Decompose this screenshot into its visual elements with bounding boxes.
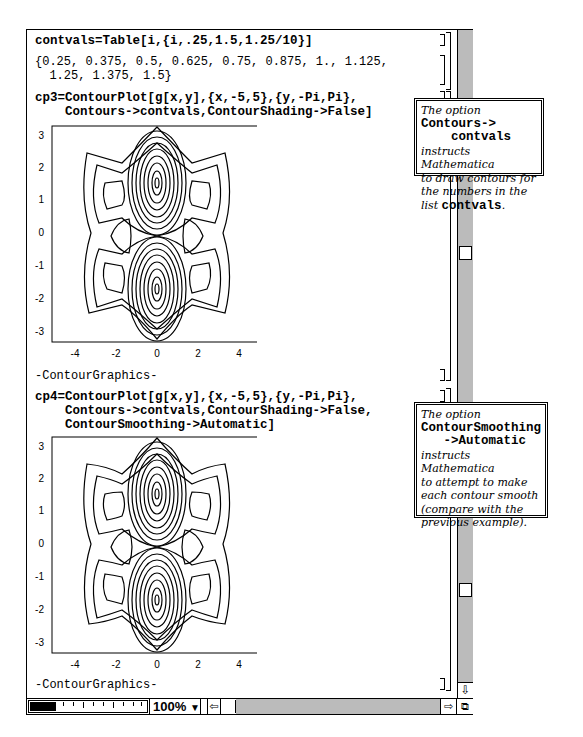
cell-bracket[interactable] <box>440 55 445 85</box>
svg-text:2: 2 <box>38 162 44 173</box>
y-axis-ticks: 3210 -1-2-3 <box>35 441 44 648</box>
svg-text:1: 1 <box>38 194 44 205</box>
output-cell-cp4[interactable]: -ContourGraphics- <box>35 678 157 692</box>
scroll-thumb[interactable] <box>459 583 472 597</box>
svg-text:3: 3 <box>38 441 44 452</box>
svg-text:4: 4 <box>236 348 242 359</box>
input-line: Contours->contvals,ContourShading->False… <box>35 404 373 418</box>
callout-text: instructs Mathematica <box>421 449 541 476</box>
input-line: ContourSmoothing->Automatic] <box>35 418 373 432</box>
contour-lines <box>84 438 230 652</box>
input-cell-cp4[interactable]: cp4=ContourPlot[g[x,y],{x,-5,5},{y,-Pi,P… <box>35 390 373 432</box>
graphics-label: -ContourGraphics- <box>35 369 157 383</box>
svg-text:-2: -2 <box>112 659 121 670</box>
svg-text:-1: -1 <box>35 571 44 582</box>
zoom-level-select[interactable]: 100% ▼ <box>149 699 201 714</box>
callout-text: previous example). <box>421 516 541 530</box>
callout-intro: The option <box>421 408 541 422</box>
output-cell-cp3[interactable]: -ContourGraphics- <box>35 369 157 383</box>
svg-text:4: 4 <box>236 659 242 670</box>
callout-code: ContourSmoothing <box>421 422 541 436</box>
contour-lines <box>84 127 230 341</box>
svg-text:-2: -2 <box>35 604 44 615</box>
input-line: cp3=ContourPlot[g[x,y],{x,-5,5},{y,-Pi,P… <box>35 91 373 105</box>
graphics-label: -ContourGraphics- <box>35 678 157 692</box>
horizontal-scrollbar-track[interactable] <box>236 699 440 714</box>
callout-code: Contours-> <box>421 118 537 132</box>
svg-text:-3: -3 <box>35 326 44 337</box>
y-axis-ticks: 3210 -1-2-3 <box>35 130 44 337</box>
cell-bracket[interactable] <box>440 390 445 402</box>
svg-text:0: 0 <box>154 659 160 670</box>
callout-text: (compare with the <box>421 503 541 517</box>
notebook-content: contvals=Table[i,{i,.25,1.5,1.25/10}] {0… <box>27 30 457 698</box>
output-line: 1.25, 1.375, 1.5} <box>35 69 388 83</box>
output-cell-contvals[interactable]: {0.25, 0.375, 0.5, 0.625, 0.75, 0.875, 1… <box>35 55 388 83</box>
cell-bracket[interactable] <box>440 34 445 46</box>
svg-text:3: 3 <box>38 130 44 141</box>
svg-text:2: 2 <box>195 659 201 670</box>
input-line: Contours->contvals,ContourShading->False… <box>35 105 373 119</box>
annotation-callout-contours: The option Contours-> contvals instructs… <box>414 98 544 176</box>
svg-text:0: 0 <box>38 227 44 238</box>
resize-grow-icon[interactable]: ⧉ <box>456 699 473 714</box>
scroll-left-arrow-icon[interactable]: ⇦ <box>207 699 221 714</box>
x-axis-ticks: -4-2024 <box>71 348 243 359</box>
cell-bracket[interactable] <box>440 678 445 690</box>
horizontal-scroll-thumb[interactable] <box>222 700 236 713</box>
svg-text:-4: -4 <box>71 659 80 670</box>
svg-text:-3: -3 <box>35 637 44 648</box>
callout-code: ->Automatic <box>421 435 541 449</box>
scroll-right-arrow-icon[interactable]: ⇨ <box>440 699 456 714</box>
x-axis-ticks: -4-2024 <box>71 659 243 670</box>
scroll-down-arrow-icon[interactable]: ⇩ <box>458 682 473 698</box>
svg-text:1: 1 <box>38 505 44 516</box>
callout-text: to attempt to make <box>421 476 541 490</box>
svg-text:0: 0 <box>154 348 160 359</box>
contour-plot-cp4[interactable]: 3210 -1-2-3 -4-2024 <box>27 434 257 684</box>
zoom-level-value: 100% <box>153 699 186 714</box>
notebook-window: contvals=Table[i,{i,.25,1.5,1.25/10}] {0… <box>26 29 473 715</box>
input-line: cp4=ContourPlot[g[x,y],{x,-5,5},{y,-Pi,P… <box>35 390 373 404</box>
annotation-callout-smoothing: The option ContourSmoothing ->Automatic … <box>414 402 548 518</box>
cell-bracket[interactable] <box>440 369 445 381</box>
svg-text:-1: -1 <box>35 260 44 271</box>
callout-text: each contour smooth <box>421 489 541 503</box>
callout-text: list contvals. <box>421 199 537 214</box>
callout-code: contvals <box>421 131 537 145</box>
svg-text:-4: -4 <box>71 348 80 359</box>
callout-text: the numbers in the <box>421 185 537 199</box>
callout-text: instructs Mathematica <box>421 145 537 172</box>
output-line: {0.25, 0.375, 0.5, 0.625, 0.75, 0.875, 1… <box>35 55 388 69</box>
ruler-fill <box>30 702 56 711</box>
input-cell-cp3[interactable]: cp3=ContourPlot[g[x,y],{x,-5,5},{y,-Pi,P… <box>35 91 373 119</box>
svg-text:0: 0 <box>38 538 44 549</box>
input-cell-contvals[interactable]: contvals=Table[i,{i,.25,1.5,1.25/10}] <box>35 34 313 48</box>
input-line: contvals=Table[i,{i,.25,1.5,1.25/10}] <box>35 34 313 48</box>
magnification-ruler[interactable] <box>28 700 148 713</box>
svg-text:2: 2 <box>195 348 201 359</box>
contour-plot-cp3[interactable]: 3210 -1-2-3 -4-2024 <box>27 123 257 373</box>
callout-text: to draw contours for <box>421 172 537 186</box>
scroll-thumb[interactable] <box>459 246 472 260</box>
group-bracket[interactable] <box>446 32 451 90</box>
status-bar: 100% ▼ ⇦ ⇨ ⧉ <box>27 698 473 714</box>
callout-intro: The option <box>421 104 537 118</box>
svg-text:-2: -2 <box>112 348 121 359</box>
svg-text:2: 2 <box>38 473 44 484</box>
dropdown-arrow-icon: ▼ <box>190 702 200 713</box>
svg-text:-2: -2 <box>35 293 44 304</box>
